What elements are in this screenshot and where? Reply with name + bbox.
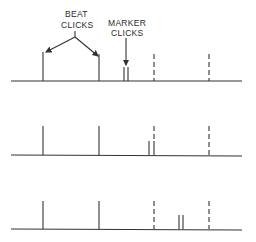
marker-clicks-label-line1: MARKER xyxy=(108,18,146,28)
beat-marker-diagram: BEAT CLICKS MARKER CLICKS xyxy=(0,0,256,242)
marker-clicks-label-line2: CLICKS xyxy=(111,28,144,38)
beat-clicks-label-line2: CLICKS xyxy=(61,20,94,30)
baseline xyxy=(11,155,242,156)
row-2 xyxy=(11,126,242,156)
baseline xyxy=(11,229,242,230)
row-3 xyxy=(11,201,242,230)
beat-clicks-arrows xyxy=(46,31,98,56)
beat-clicks-label-line1: BEAT xyxy=(65,9,88,19)
